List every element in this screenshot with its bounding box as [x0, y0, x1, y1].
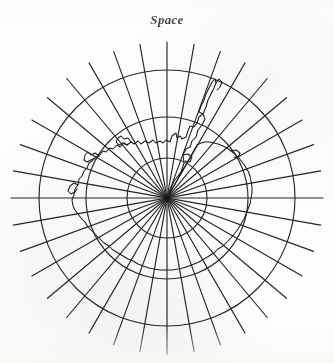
meridian-line	[48, 98, 166, 197]
pole-dot-icon	[164, 195, 169, 200]
meridian-line	[48, 199, 166, 298]
meridian-line	[67, 79, 166, 197]
meridian-line	[67, 200, 166, 318]
antarctic-peninsula-outline	[199, 79, 216, 114]
meridian-line	[168, 200, 267, 318]
meridian-line	[169, 98, 287, 197]
meridian-line	[169, 199, 287, 298]
polar-projection-svg	[0, 0, 334, 363]
antarctic-map-plate	[0, 0, 334, 363]
coastline-detail	[68, 183, 78, 194]
antarctica-coastline-group	[68, 79, 252, 270]
meridian-line	[168, 79, 267, 197]
south-pole-marker	[164, 195, 169, 200]
